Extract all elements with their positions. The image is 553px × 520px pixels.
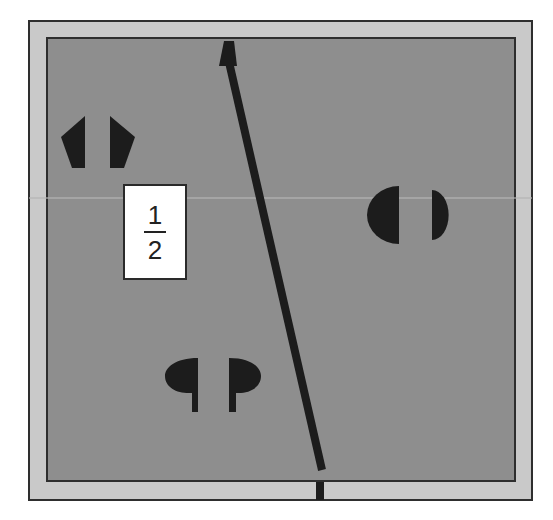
diagram-canvas (0, 0, 553, 520)
inner-field (47, 38, 515, 481)
scan-artifact-band (29, 197, 532, 199)
fraction-denominator: 2 (148, 237, 162, 263)
fraction-numerator: 1 (148, 202, 162, 228)
line-tick-mark (316, 482, 324, 500)
fraction-bar (144, 231, 166, 233)
fraction-label: 1 2 (123, 184, 187, 280)
